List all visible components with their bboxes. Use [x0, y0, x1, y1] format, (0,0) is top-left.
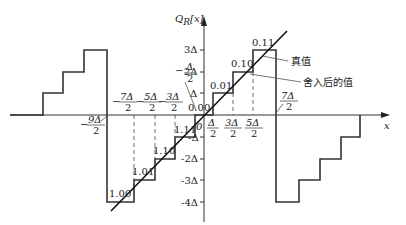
svg-text:2: 2 [187, 73, 193, 84]
y-tick-m3: -3Δ [181, 175, 198, 186]
true-value-label: 真值 [291, 55, 311, 67]
true-value-leader [262, 56, 288, 61]
svg-text:Δ: Δ [207, 117, 215, 128]
code-0-01: 0.01 [210, 80, 232, 91]
y-tick-3: 3Δ [184, 44, 198, 55]
svg-text:−: − [175, 65, 183, 76]
svg-text:2: 2 [230, 128, 236, 139]
code-1-00: 1.00 [109, 188, 131, 199]
y-tick-1: Δ [190, 88, 197, 99]
y-axis-label: QR[x] [175, 13, 204, 27]
code-0-10: 0.10 [231, 58, 253, 69]
svg-text:2: 2 [286, 101, 292, 112]
x-tick-m7half: − 7Δ 2 [112, 91, 137, 113]
svg-text:2: 2 [210, 128, 216, 139]
svg-text:2: 2 [171, 102, 177, 113]
x-tick-m3half: − 3Δ 2 [158, 91, 183, 113]
x-axis-label: x [384, 120, 390, 131]
svg-text:7Δ: 7Δ [120, 91, 134, 102]
svg-text:Δ: Δ [185, 61, 193, 72]
code-0-11: 0.11 [252, 37, 274, 48]
svg-text:7Δ: 7Δ [281, 90, 295, 101]
svg-text:5Δ: 5Δ [246, 117, 260, 128]
svg-text:3Δ: 3Δ [225, 117, 239, 128]
x-tick-m5half: − 5Δ 2 [136, 91, 161, 113]
x-tick-3half: 3Δ 2 [224, 117, 242, 139]
svg-text:5Δ: 5Δ [144, 91, 158, 102]
neg-nine-half-leader [101, 116, 107, 121]
x-axis-arrow-icon [381, 112, 390, 118]
x-tick-7half: 7Δ 2 [280, 90, 298, 112]
x-tick-m9half: − 9Δ 2 [80, 114, 105, 136]
svg-text:2: 2 [93, 125, 99, 136]
y-tick-m4: -4Δ [181, 197, 198, 208]
seven-half-leader [276, 104, 283, 113]
code-1-11: 1.11 [174, 124, 196, 135]
quantizer-diagram: QR[x] x 3Δ 2Δ Δ -Δ -2Δ -3Δ -4Δ Δ 2 3Δ 2 … [0, 0, 406, 225]
x-tick-5half: 5Δ 2 [245, 117, 263, 139]
code-zero: 0 [196, 121, 203, 132]
x-tick-half: Δ 2 [207, 117, 219, 139]
svg-text:2: 2 [125, 102, 131, 113]
svg-text:2: 2 [149, 102, 155, 113]
svg-text:9Δ: 9Δ [88, 114, 102, 125]
code-1-10: 1.10 [153, 145, 175, 156]
y-tick-m2: -2Δ [181, 153, 198, 164]
svg-text:3Δ: 3Δ [166, 91, 180, 102]
code-1-01: 1.01 [132, 166, 154, 177]
code-0-00: 0.00 [188, 102, 210, 113]
rounded-value-label: 舍入后的值 [303, 76, 353, 88]
svg-text:2: 2 [251, 128, 257, 139]
